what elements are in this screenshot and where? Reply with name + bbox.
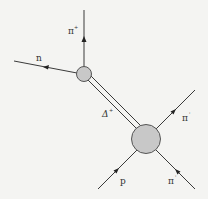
arrow-left-icon [43, 65, 49, 70]
label-pion-right-out-charge: ' [189, 111, 190, 117]
label-pion-top-charge: + [74, 24, 78, 30]
feynman-diagram: π + n Δ + π ' p π ' [0, 0, 208, 199]
label-pion-right-in: π [168, 176, 174, 186]
vertex-small [77, 67, 92, 82]
label-delta-charge: + [109, 107, 113, 113]
label-proton: p [120, 176, 126, 186]
arrow-up-icon [82, 36, 87, 42]
delta-line-b [91, 76, 143, 128]
delta-line-a [87, 79, 139, 131]
label-pion-right-in-charge: ' [175, 174, 176, 180]
vertex-large [132, 125, 161, 154]
label-delta: Δ [101, 109, 109, 119]
label-pion-right-out: π [182, 113, 188, 123]
label-neutron: n [36, 53, 42, 63]
